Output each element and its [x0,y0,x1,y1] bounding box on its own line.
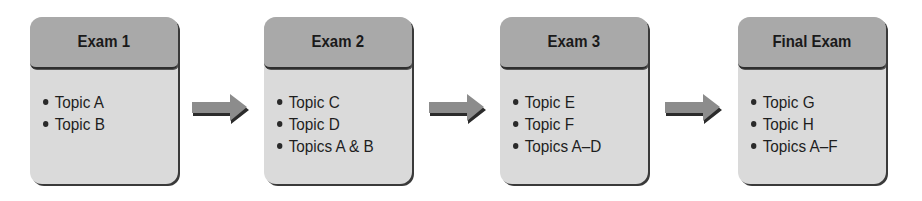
topic-item: Topic A [43,92,165,114]
final-exam-topic-list: Topic G Topic H Topics A–F [738,69,886,158]
topic-item: Topic E [513,92,635,114]
topic-item: Topic D [277,114,399,136]
exam-2-header: Exam 2 [264,17,412,69]
right-arrow-icon [663,92,723,124]
bullet-icon [277,143,282,149]
final-exam-title: Final Exam [772,32,851,52]
topic-item: Topics A–F [751,136,873,158]
topic-item: Topic H [751,114,873,136]
exam-1-title: Exam 1 [78,32,130,52]
bullet-icon [513,99,518,105]
exam-1-topic-list: Topic A Topic B [30,69,178,136]
bullet-icon [751,121,756,127]
exam-1-header: Exam 1 [30,17,178,69]
exam-3-topic-list: Topic E Topic F Topics A–D [500,69,648,158]
exam-3-title: Exam 3 [548,32,600,52]
exam-3-header: Exam 3 [500,17,648,69]
exam-2-box: Exam 2 Topic C Topic D Topics A & B [264,17,412,184]
topic-item: Topic C [277,92,399,114]
right-arrow-icon [427,92,487,124]
topic-item: Topic F [513,114,635,136]
bullet-icon [43,99,48,105]
topic-item: Topics A–D [513,136,635,158]
bullet-icon [751,99,756,105]
topic-item: Topic G [751,92,873,114]
bullet-icon [277,121,282,127]
exam-2-title: Exam 2 [312,32,364,52]
topic-item: Topics A & B [277,136,399,158]
bullet-icon [513,121,518,127]
bullet-icon [513,143,518,149]
topic-item: Topic B [43,114,165,136]
final-exam-box: Final Exam Topic G Topic H Topics A–F [738,17,886,184]
bullet-icon [751,143,756,149]
bullet-icon [43,121,48,127]
right-arrow-icon [190,92,250,124]
bullet-icon [277,99,282,105]
exam-1-box: Exam 1 Topic A Topic B [30,17,178,184]
exam-3-box: Exam 3 Topic E Topic F Topics A–D [500,17,648,184]
exam-2-topic-list: Topic C Topic D Topics A & B [264,69,412,158]
final-exam-header: Final Exam [738,17,886,69]
